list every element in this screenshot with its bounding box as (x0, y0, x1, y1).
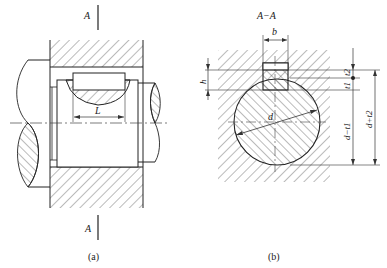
key (73, 73, 125, 90)
section-title: A−A (256, 10, 277, 21)
dimension-L-label: L (94, 105, 101, 116)
hub-bottom-section (50, 167, 143, 208)
right-shaft-section (150, 83, 160, 123)
keyed-joint-diagram: A L (0, 0, 387, 268)
hub-top-section (50, 40, 143, 67)
dimension-t1-label: t1 (342, 82, 352, 89)
section-label-top: A (83, 10, 91, 21)
caption-b: (b) (268, 251, 280, 263)
caption-a: (a) (88, 251, 99, 263)
figure-b: A−A d b h (198, 10, 380, 263)
left-shaft-section (18, 123, 39, 187)
dimension-t2-label: t2 (342, 68, 352, 76)
section-label-bottom: A (84, 223, 92, 234)
dimension-d-plus-t2-label: d+t2 (364, 110, 374, 128)
dimension-d-minus-t1-label: d−t1 (342, 122, 352, 140)
figure-a: A L (10, 5, 170, 263)
dimension-h-label: h (198, 79, 208, 84)
dimension-b-label: b (272, 26, 277, 37)
